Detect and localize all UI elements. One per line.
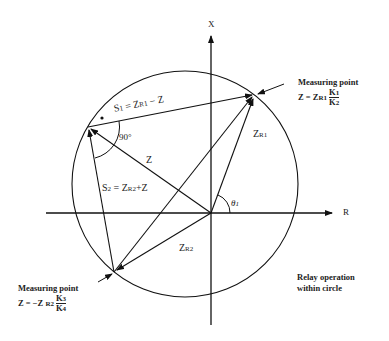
z-label: Z bbox=[146, 155, 152, 165]
zr1-label: ZR1 bbox=[253, 129, 267, 139]
pointer-bottom bbox=[98, 274, 112, 282]
measuring-point-bottom-title: Measuring point bbox=[18, 283, 78, 294]
measuring-point-top: Measuring point Z = ZR1K1K2 bbox=[298, 77, 358, 107]
dot-marker bbox=[100, 116, 103, 119]
theta-label: θ1 bbox=[231, 199, 239, 208]
theta-arc bbox=[218, 195, 230, 213]
x-axis-label: X bbox=[208, 20, 215, 29]
right-angle-arc bbox=[95, 121, 120, 158]
relay-note-line1: Relay operation bbox=[297, 272, 355, 283]
relay-note: Relay operation within circle bbox=[297, 272, 355, 293]
relay-circle-diagram: X R S1 = ZR1 − Z S2 = ZR2+Z Z 90° ZR1 ZR… bbox=[0, 0, 389, 341]
zr2-vector bbox=[117, 213, 211, 270]
s1-vector bbox=[88, 95, 252, 127]
angle-90-label: 90° bbox=[119, 133, 132, 142]
zr1-vector bbox=[211, 99, 253, 213]
measuring-point-bottom: Measuring point Z = −Z R2K3K4 bbox=[18, 283, 78, 313]
zr2-label: ZR2 bbox=[179, 243, 193, 253]
r-axis-label: R bbox=[343, 208, 349, 217]
measuring-point-top-expr: Z = ZR1K1K2 bbox=[298, 88, 358, 108]
relay-note-line2: within circle bbox=[297, 283, 355, 294]
s2-label: S2 = ZR2+Z bbox=[102, 183, 148, 193]
measuring-point-bottom-expr: Z = −Z R2K3K4 bbox=[18, 294, 78, 314]
s2-vector bbox=[89, 130, 114, 272]
pointer-top bbox=[258, 84, 284, 94]
